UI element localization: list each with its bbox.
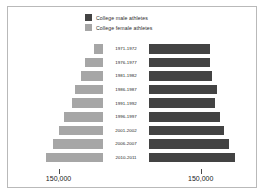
bar-male	[149, 58, 210, 68]
category-label: 1976-1977	[103, 57, 149, 68]
bar-female	[81, 71, 103, 81]
chart-row: 2010-2011	[17, 152, 249, 163]
chart-row: 2001-2002	[17, 125, 249, 136]
x-axis: 150,000150,000	[17, 169, 249, 191]
legend-swatch-male	[85, 14, 92, 21]
legend-label-male: College male athletes	[96, 15, 148, 21]
category-label: 1986-1987	[103, 84, 149, 95]
chart-row: 1991-1992	[17, 97, 249, 108]
category-label: 1981-1982	[103, 70, 149, 81]
bar-female	[64, 112, 103, 122]
axis-tick-right	[201, 169, 202, 174]
legend-label-female: College female athletes	[96, 25, 153, 31]
plot-area: 1971-19721976-19771981-19821986-19871991…	[17, 43, 249, 165]
bar-male	[149, 139, 229, 149]
category-label: 1991-1992	[103, 97, 149, 108]
axis-tick-label-left: 150,000	[46, 175, 71, 182]
legend-swatch-female	[85, 24, 92, 31]
bar-male	[149, 85, 217, 95]
bar-female	[53, 139, 103, 149]
bar-female	[94, 44, 103, 54]
chart-row: 2006-2007	[17, 138, 249, 149]
legend-item-male: College male athletes	[85, 14, 153, 21]
bar-female	[59, 126, 103, 136]
bar-male	[149, 112, 220, 122]
category-label: 1971-1972	[103, 43, 149, 54]
axis-tick-label-right: 150,000	[188, 175, 213, 182]
bar-male	[149, 126, 224, 136]
category-label: 1996-1997	[103, 111, 149, 122]
bar-female	[85, 58, 103, 68]
chart-row: 1981-1982	[17, 70, 249, 81]
bar-female	[46, 153, 103, 163]
bar-male	[149, 71, 212, 81]
axis-tick-left	[59, 169, 60, 174]
chart-row: 1986-1987	[17, 84, 249, 95]
bar-female	[72, 98, 103, 108]
bar-male	[149, 153, 235, 163]
category-label: 2006-2007	[103, 138, 149, 149]
chart-row: 1976-1977	[17, 57, 249, 68]
bar-female	[75, 85, 103, 95]
chart-row: 1996-1997	[17, 111, 249, 122]
chart-legend: College male athletes College female ath…	[85, 14, 153, 31]
legend-item-female: College female athletes	[85, 24, 153, 31]
bar-male	[149, 44, 210, 54]
category-label: 2001-2002	[103, 125, 149, 136]
category-label: 2010-2011	[103, 152, 149, 163]
chart-frame: College male athletes College female ath…	[7, 6, 257, 188]
chart-row: 1971-1972	[17, 43, 249, 54]
bar-male	[149, 98, 215, 108]
